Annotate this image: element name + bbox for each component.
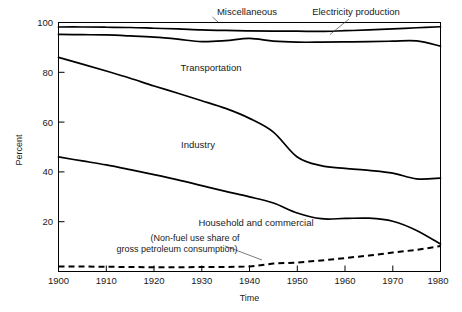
leader-miscellaneous <box>213 17 219 22</box>
y-tick-label-80: 80 <box>42 67 53 78</box>
x-tick-label-1910: 1910 <box>96 275 117 286</box>
x-tick-label-1900: 1900 <box>48 275 69 286</box>
series-label-miscellaneous: Miscellaneous <box>217 6 277 17</box>
x-tick-label-1930: 1930 <box>191 275 212 286</box>
x-axis-title: Time <box>240 293 260 303</box>
chart-figure: 100 80 60 40 20 Percent 1900 1910 1920 1… <box>0 0 462 312</box>
data-curves <box>59 27 441 268</box>
y-axis-ticks <box>59 23 65 222</box>
annotation-nonfuel-line2: gross petroleum consumption) <box>116 244 237 254</box>
x-tick-label-1920: 1920 <box>143 275 164 286</box>
curve-electricity-production <box>59 34 441 46</box>
line-chart-svg: 100 80 60 40 20 Percent 1900 1910 1920 1… <box>0 0 462 312</box>
x-tick-label-1940: 1940 <box>239 275 260 286</box>
series-label-household-and-commercial: Household and commercial <box>198 217 313 228</box>
x-tick-label-1980: 1980 <box>427 275 448 286</box>
x-tick-label-1950: 1950 <box>287 275 308 286</box>
curve-industry <box>59 157 441 244</box>
annotation-nonfuel-line1: (Non-fuel use share of <box>150 233 240 243</box>
y-tick-label-100: 100 <box>37 17 53 28</box>
curve-transportation <box>59 57 441 179</box>
curve-miscellaneous <box>59 27 441 32</box>
y-tick-label-20: 20 <box>42 216 53 227</box>
series-label-transportation: Transportation <box>181 62 242 73</box>
series-label-industry: Industry <box>181 139 215 150</box>
y-tick-label-40: 40 <box>42 166 53 177</box>
y-tick-label-60: 60 <box>42 117 53 128</box>
x-tick-label-1960: 1960 <box>334 275 355 286</box>
series-label-electricity-production: Electricity production <box>312 6 400 17</box>
y-axis-title: Percent <box>14 134 24 166</box>
x-tick-label-1970: 1970 <box>382 275 403 286</box>
plot-frame <box>59 23 441 272</box>
leader-electricity <box>330 19 349 35</box>
